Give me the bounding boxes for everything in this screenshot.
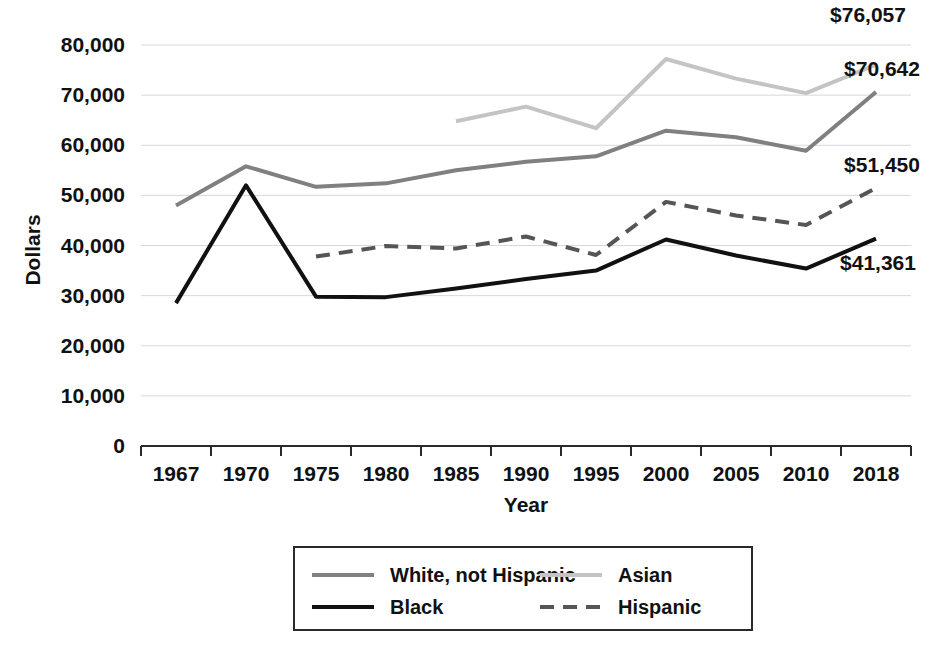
x-axis <box>141 446 911 456</box>
y-axis-tick-label: 80,000 <box>61 33 125 56</box>
value-annotations: $76,057$70,642$51,450$41,361 <box>830 3 920 274</box>
y-axis-tick-label: 60,000 <box>61 133 125 156</box>
gridlines <box>141 45 911 396</box>
y-axis-tick-label: 0 <box>113 434 125 457</box>
line-chart: 010,00020,00030,00040,00050,00060,00070,… <box>0 0 940 650</box>
x-axis-tick-label: 1990 <box>503 462 550 485</box>
x-axis-tick-label: 1975 <box>293 462 340 485</box>
y-axis-tick-label: 40,000 <box>61 234 125 257</box>
legend-label: Asian <box>618 564 672 586</box>
x-axis-tick-label: 2010 <box>783 462 830 485</box>
y-axis-tick-label: 50,000 <box>61 183 125 206</box>
y-axis-tick-label: 30,000 <box>61 284 125 307</box>
y-axis-tick-labels: 010,00020,00030,00040,00050,00060,00070,… <box>61 33 125 457</box>
x-axis-tick-label: 1985 <box>433 462 480 485</box>
x-axis-tick-label: 2005 <box>713 462 760 485</box>
legend: White, not HispanicAsianBlackHispanic <box>294 547 752 630</box>
x-axis-tick-label: 1967 <box>153 462 200 485</box>
chart-container: 010,00020,00030,00040,00050,00060,00070,… <box>0 0 940 650</box>
x-axis-tick-labels: 1967197019751980198519901995200020052010… <box>153 462 900 485</box>
series-lines <box>176 59 876 303</box>
y-axis-title: Dollars <box>21 214 44 285</box>
x-axis-tick-label: 2018 <box>853 462 900 485</box>
x-axis-tick-label: 1995 <box>573 462 620 485</box>
series-line-hispanic <box>316 188 876 256</box>
legend-label: Hispanic <box>618 596 701 618</box>
x-axis-tick-label: 2000 <box>643 462 690 485</box>
value-label: $51,450 <box>844 153 920 176</box>
series-line-white-not-hispanic <box>176 92 876 205</box>
value-label: $76,057 <box>830 3 906 26</box>
y-axis-tick-label: 10,000 <box>61 384 125 407</box>
y-axis-tick-label: 20,000 <box>61 334 125 357</box>
y-axis-tick-label: 70,000 <box>61 83 125 106</box>
x-axis-tick-label: 1970 <box>223 462 270 485</box>
series-line-asian <box>456 59 876 128</box>
x-axis-tick-label: 1980 <box>363 462 410 485</box>
legend-label: Black <box>390 596 444 618</box>
series-line-black <box>176 185 876 303</box>
value-label: $41,361 <box>840 251 916 274</box>
value-label: $70,642 <box>844 57 920 80</box>
x-axis-title: Year <box>504 493 548 516</box>
x-axis-tick-marks <box>141 446 911 456</box>
